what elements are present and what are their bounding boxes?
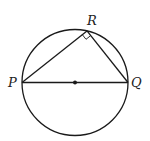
label-p: P — [7, 75, 17, 90]
chord-pr — [22, 31, 87, 83]
right-angle-marker — [82, 35, 90, 40]
circle-diagram: R P Q — [0, 0, 150, 141]
label-r: R — [86, 13, 97, 28]
center-dot — [73, 81, 77, 85]
label-q: Q — [131, 75, 142, 90]
